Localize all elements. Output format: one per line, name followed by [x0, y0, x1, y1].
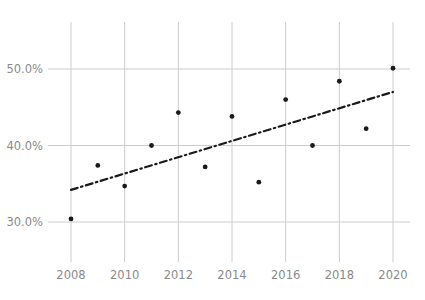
data-point	[256, 180, 261, 185]
y-tick-label: 50.0%	[6, 62, 43, 76]
x-tick-label: 2010	[110, 268, 139, 282]
data-point	[391, 66, 396, 71]
data-point	[122, 184, 127, 189]
data-point	[176, 110, 181, 115]
chart-canvas: 30.0%40.0%50.0% 200820102012201420162018…	[0, 0, 425, 300]
data-point	[337, 79, 342, 84]
x-tick-label: 2012	[164, 268, 193, 282]
data-point	[95, 163, 100, 168]
scatter-chart: 30.0%40.0%50.0% 200820102012201420162018…	[0, 0, 425, 300]
x-tick-label: 2018	[325, 268, 354, 282]
data-point	[230, 114, 235, 119]
data-point	[283, 97, 288, 102]
chart-background	[0, 0, 425, 300]
x-tick-label: 2016	[271, 268, 300, 282]
x-tick-label: 2014	[217, 268, 246, 282]
x-tick-label: 2020	[378, 268, 407, 282]
data-point	[310, 143, 315, 148]
y-tick-label: 40.0%	[6, 139, 43, 153]
x-tick-label: 2008	[56, 268, 85, 282]
data-point	[203, 165, 208, 170]
data-point	[364, 126, 369, 131]
data-point	[69, 217, 74, 222]
y-tick-label: 30.0%	[6, 215, 43, 229]
data-point	[149, 143, 154, 148]
